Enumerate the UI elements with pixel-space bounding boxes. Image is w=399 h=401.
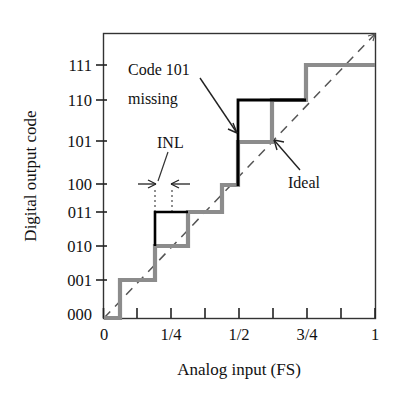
adc-transfer-function-chart: 111 110 101 100 011 010 001 000 0 1/4 1/…	[0, 0, 399, 401]
annotation-ideal: Ideal	[288, 174, 321, 191]
figure-container: 111 110 101 100 011 010 001 000 0 1/4 1/…	[0, 0, 399, 401]
y-tick-label-111: 111	[68, 56, 92, 75]
annotation-code-missing-line2: missing	[128, 90, 178, 108]
y-tick-label-011: 011	[68, 203, 92, 222]
y-tick-label-010: 010	[67, 237, 92, 256]
x-tick-label-0: 0	[100, 325, 108, 344]
annotation-code-missing-line1: Code 101	[128, 61, 190, 78]
chart-background	[0, 0, 399, 401]
y-axis-title: Digital output code	[21, 110, 40, 241]
x-tick-label-1-2: 1/2	[228, 325, 249, 344]
annotation-inl: INL	[157, 134, 184, 151]
x-tick-label-1-4: 1/4	[160, 325, 181, 344]
y-tick-label-101: 101	[67, 132, 92, 151]
y-tick-label-001: 001	[67, 271, 92, 290]
x-tick-label-1: 1	[371, 325, 379, 344]
y-tick-label-100: 100	[67, 175, 92, 194]
y-tick-label-000: 000	[67, 305, 92, 324]
x-axis-title: Analog input (FS)	[177, 360, 301, 379]
x-tick-label-3-4: 3/4	[296, 325, 317, 344]
y-tick-label-110: 110	[68, 91, 92, 110]
